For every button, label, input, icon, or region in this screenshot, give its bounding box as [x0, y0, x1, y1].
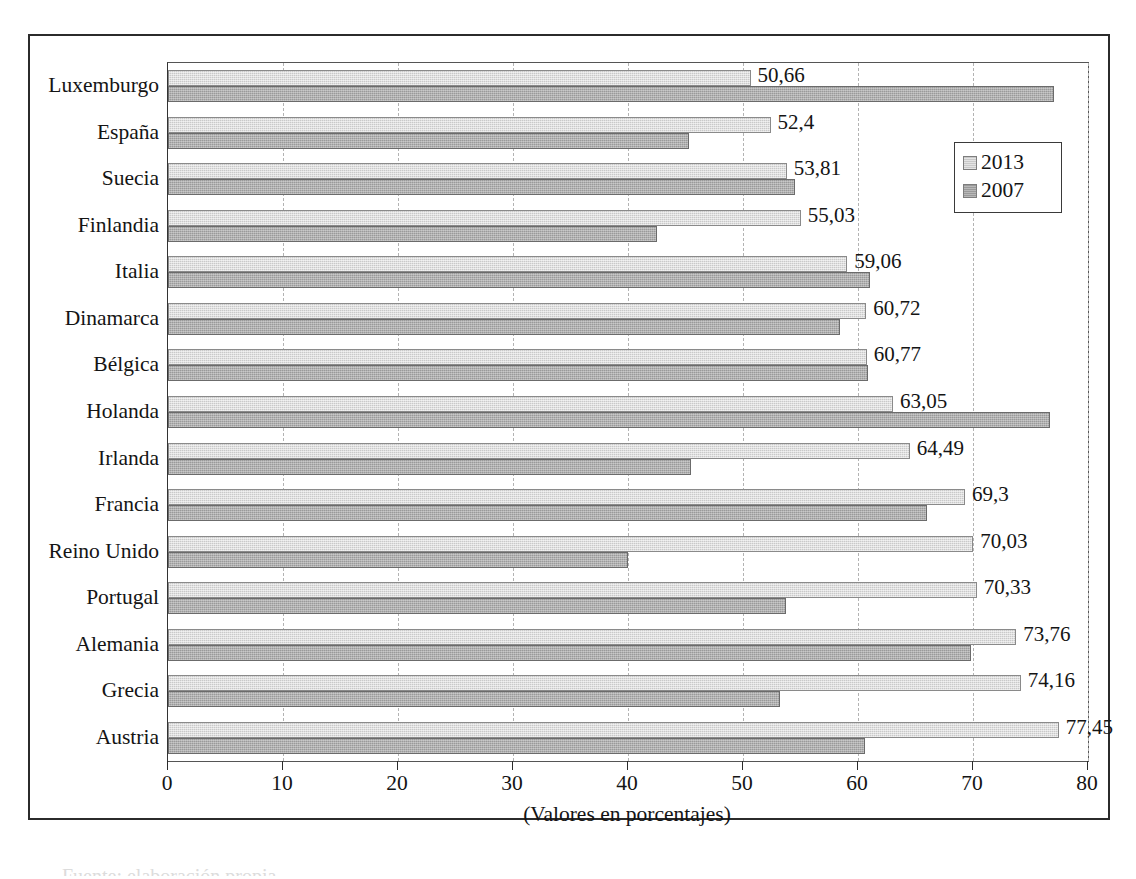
bar-2007 [168, 179, 795, 195]
legend-swatch-2007-icon [963, 184, 977, 198]
bar-2007 [168, 412, 1050, 428]
category-label: Bélgica [93, 354, 159, 376]
bar-value-label: 64,49 [917, 438, 964, 459]
bar-2013 [168, 582, 977, 598]
category-row: Grecia74,16 [168, 668, 1088, 715]
x-axis-tick-label: 0 [162, 773, 173, 795]
bar-value-label: 60,77 [874, 344, 921, 365]
x-axis-tick [627, 761, 628, 770]
x-axis-tick-label: 10 [271, 773, 293, 795]
bar-2007 [168, 319, 840, 335]
bar-2013 [168, 722, 1059, 738]
category-row: Dinamarca60,72 [168, 296, 1088, 343]
x-axis-tick-label: 40 [616, 773, 638, 795]
category-row: Suecia53,81 [168, 156, 1088, 203]
chart-legend: 2013 2007 [954, 142, 1062, 213]
caption-remnant: Fuente: elaboración propia [62, 866, 762, 876]
bar-2007 [168, 459, 691, 475]
category-label: Portugal [86, 587, 159, 609]
bar-2007 [168, 365, 868, 381]
category-row: Italia59,06 [168, 249, 1088, 296]
category-row: Bélgica60,77 [168, 342, 1088, 389]
bar-value-label: 73,76 [1023, 624, 1070, 645]
bar-value-label: 63,05 [900, 391, 947, 412]
bar-value-label: 70,33 [984, 577, 1031, 598]
bar-2007 [168, 86, 1054, 102]
x-axis-tick [1087, 761, 1088, 770]
bar-2013 [168, 349, 867, 365]
category-label: Austria [96, 727, 159, 749]
category-row: Austria77,45 [168, 714, 1088, 761]
category-row: Alemania73,76 [168, 621, 1088, 668]
gridline [1088, 63, 1089, 761]
x-axis-tick-label: 70 [961, 773, 983, 795]
category-row: Reino Unido70,03 [168, 528, 1088, 575]
bar-2007 [168, 691, 780, 707]
category-row: Holanda63,05 [168, 389, 1088, 436]
x-axis-tick-label: 80 [1076, 773, 1098, 795]
x-axis-tick [282, 761, 283, 770]
category-label: Dinamarca [65, 308, 159, 330]
category-row: España52,4 [168, 110, 1088, 157]
legend-item-2007: 2007 [963, 177, 1053, 205]
x-axis-tick [742, 761, 743, 770]
bar-2007 [168, 738, 865, 754]
category-label: Alemania [75, 634, 159, 656]
category-label: Finlandia [78, 215, 159, 237]
category-label: Irlanda [98, 448, 159, 470]
bar-2013 [168, 163, 787, 179]
x-axis-tick-label: 50 [731, 773, 753, 795]
bar-2007 [168, 505, 927, 521]
bar-2013 [168, 536, 973, 552]
x-axis-tick [512, 761, 513, 770]
x-axis-tick-label: 30 [501, 773, 523, 795]
category-label: Francia [95, 494, 159, 516]
category-label: España [97, 122, 159, 144]
bar-2013 [168, 629, 1016, 645]
bar-2013 [168, 70, 751, 86]
category-label: Suecia [102, 168, 159, 190]
bar-2013 [168, 303, 866, 319]
x-axis-tick-label: 60 [846, 773, 868, 795]
bar-2013 [168, 396, 893, 412]
bar-2007 [168, 133, 689, 149]
bar-value-label: 74,16 [1028, 670, 1075, 691]
category-label: Luxemburgo [48, 75, 159, 97]
bar-2013 [168, 489, 965, 505]
category-row: Finlandia55,03 [168, 203, 1088, 250]
legend-label-2007: 2007 [981, 180, 1024, 202]
plot-area: Luxemburgo50,66España52,4Suecia53,81Finl… [167, 62, 1089, 762]
bar-2013 [168, 210, 801, 226]
legend-label-2013: 2013 [981, 152, 1024, 174]
chart-figure-frame: Luxemburgo50,66España52,4Suecia53,81Finl… [28, 34, 1110, 820]
bar-value-label: 77,45 [1066, 717, 1113, 738]
bar-value-label: 50,66 [758, 65, 805, 86]
bar-value-label: 70,03 [980, 531, 1027, 552]
bar-value-label: 69,3 [972, 484, 1009, 505]
bar-2013 [168, 117, 771, 133]
x-axis-tick-label: 20 [386, 773, 408, 795]
bar-2007 [168, 272, 870, 288]
x-axis-tick [167, 761, 168, 770]
category-row: Irlanda64,49 [168, 435, 1088, 482]
legend-item-2013: 2013 [963, 149, 1053, 177]
category-row: Portugal70,33 [168, 575, 1088, 622]
x-axis-tick [397, 761, 398, 770]
category-label: Reino Unido [49, 541, 159, 563]
bar-value-label: 55,03 [808, 205, 855, 226]
category-label: Italia [115, 261, 159, 283]
bar-2007 [168, 645, 971, 661]
category-label: Holanda [86, 401, 159, 423]
bar-2013 [168, 256, 847, 272]
bar-2013 [168, 443, 910, 459]
category-row: Luxemburgo50,66 [168, 63, 1088, 110]
bar-value-label: 52,4 [778, 112, 815, 133]
category-row: Francia69,3 [168, 482, 1088, 529]
bar-2013 [168, 675, 1021, 691]
x-axis-title: (Valores en porcentajes) [167, 802, 1087, 827]
bar-value-label: 53,81 [794, 158, 841, 179]
bar-value-label: 60,72 [873, 298, 920, 319]
x-axis-tick [972, 761, 973, 770]
bar-2007 [168, 598, 786, 614]
bar-value-label: 59,06 [854, 251, 901, 272]
